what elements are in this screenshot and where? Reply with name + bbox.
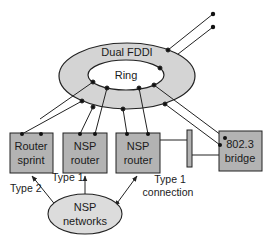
bridge-line2: bridge <box>225 152 256 164</box>
nsp-router-2-box: NSP router <box>116 132 160 173</box>
cloud-line1: NSP <box>74 201 97 213</box>
ring-outer-label: Dual FDDI <box>101 46 152 58</box>
bridge-line1: 802.3 <box>226 138 254 150</box>
lan-segment-bar <box>160 130 219 167</box>
router-sprint-box: Router sprint <box>10 132 53 173</box>
dual-fddi-ring: Dual FDDI Ring <box>59 43 195 109</box>
bridge-box: 802.3 bridge <box>218 131 262 171</box>
nsp-router-2-line2: router <box>124 154 153 166</box>
cloud-line2: networks <box>63 215 108 227</box>
type1-connection-line1: Type 1 <box>154 173 186 185</box>
nsp-router-1-line2: router <box>71 154 100 166</box>
nsp-router-2-line1: NSP <box>127 140 150 152</box>
nsp-networks-cloud: NSP networks <box>48 194 122 234</box>
nsp-router-1-box: NSP router <box>63 132 107 173</box>
fddi-network-diagram: Dual FDDI Ring Router sprint NSP router <box>0 0 271 238</box>
type1-label: Type 1 <box>52 171 84 183</box>
type2-label: Type 2 <box>10 182 42 194</box>
router-sprint-line1: Router <box>14 140 47 152</box>
type1-connection-line2: connection <box>143 186 194 198</box>
nsp-router-1-line1: NSP <box>74 140 97 152</box>
router-sprint-line2: sprint <box>18 154 45 166</box>
ring-inner-label: Ring <box>115 69 138 81</box>
